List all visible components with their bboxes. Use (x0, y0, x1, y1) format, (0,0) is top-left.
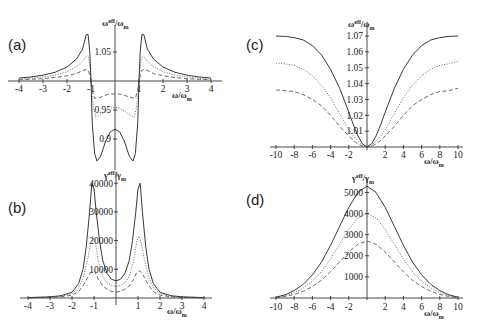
panel-d: (d)-10-8-6-4-224681010002000300040005000… (246, 173, 463, 320)
x-tick-label: 4 (401, 302, 406, 312)
x-tick-label: -4 (327, 302, 335, 312)
y-axis-label: γeff/γm (351, 173, 374, 185)
y-tick-label: 1.05 (94, 47, 111, 57)
y-tick-label: 1.05 (346, 63, 363, 73)
y-tick-label: 1.06 (346, 47, 363, 57)
x-tick-label: -2 (63, 84, 71, 94)
x-tick-label: -10 (270, 150, 283, 160)
y-tick-label: 2000 (344, 251, 363, 261)
x-tick-label: 4 (202, 301, 207, 311)
x-tick-label: 4 (401, 150, 406, 160)
y-tick-label: 3000 (344, 230, 363, 240)
x-tick-label: 4 (209, 84, 214, 94)
y-tick-label: 1.07 (346, 31, 363, 41)
panel-b: (b)-4-3-2-1123410000200003000040000γeff/… (8, 170, 212, 318)
figure-four-panel-plot: (a)-4-3-2-112341.050.950.9ωeff/ωmω/ωm (b… (0, 0, 479, 334)
x-tick-label: -3 (46, 301, 54, 311)
x-tick-label: 2 (383, 150, 388, 160)
x-tick-label: -4 (15, 84, 23, 94)
panel-label-b: (b) (8, 199, 26, 216)
y-tick-label: 30000 (89, 207, 113, 217)
x-tick-label: -6 (308, 150, 316, 160)
panel-c: (c)-10-8-6-4-22468101.011.021.031.041.05… (246, 19, 463, 168)
y-tick-label: 1000 (344, 272, 363, 282)
y-tick-label: 20000 (89, 236, 113, 246)
x-tick-label: -1 (90, 301, 98, 311)
x-tick-label: -2 (68, 301, 76, 311)
y-tick-label: 5000 (344, 188, 363, 198)
x-tick-label: 10 (453, 302, 463, 312)
x-tick-label: 2 (383, 302, 388, 312)
x-tick-label: 1 (136, 301, 141, 311)
x-tick-label: -3 (39, 84, 47, 94)
x-tick-label: -4 (327, 150, 335, 160)
x-tick-label: 2 (161, 84, 166, 94)
x-tick-label: -10 (270, 302, 283, 312)
x-tick-label: -2 (345, 150, 353, 160)
x-tick-label: 2 (158, 301, 163, 311)
x-tick-label: -2 (345, 302, 353, 312)
y-tick-label: 10000 (89, 265, 113, 275)
x-tick-label: 10 (453, 150, 463, 160)
y-axis-label: ωeff/ωm (348, 19, 374, 31)
panel-label-a: (a) (8, 36, 26, 53)
x-tick-label: -4 (24, 301, 32, 311)
x-tick-label: -8 (290, 150, 298, 160)
y-tick-label: 1.04 (346, 79, 363, 89)
panel-a: (a)-4-3-2-112341.050.950.9ωeff/ωmω/ωm (8, 18, 222, 170)
x-tick-label: -6 (308, 302, 316, 312)
y-tick-label: 0.95 (94, 105, 111, 115)
panel-label-d: (d) (246, 191, 264, 208)
panel-label-c: (c) (246, 36, 264, 53)
x-tick-label: -8 (290, 302, 298, 312)
y-tick-label: 1.03 (346, 95, 363, 105)
